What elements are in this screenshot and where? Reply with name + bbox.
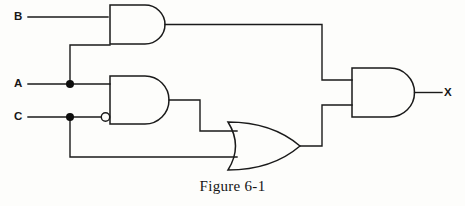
figure-container: B A C X Figure 6-1 <box>0 0 465 206</box>
input-label-b: B <box>14 11 23 23</box>
logic-circuit-diagram <box>0 0 465 206</box>
output-label-x: X <box>444 87 452 99</box>
gate-and-top <box>110 5 165 44</box>
input-label-c: C <box>14 111 23 123</box>
wire-or-output-to-final <box>300 105 352 146</box>
wire-and-middle-output-to-or <box>169 100 237 131</box>
input-label-a: A <box>14 78 23 90</box>
figure-caption: Figure 6-1 <box>0 178 465 195</box>
junction-dot-a <box>66 80 74 88</box>
wire-a-branch-to-top-and <box>70 45 110 84</box>
gate-or-bottom <box>228 122 300 170</box>
gate-and-output <box>352 68 415 117</box>
inverter-bubble-icon <box>101 113 109 121</box>
gate-and-middle <box>110 76 169 124</box>
junction-dot-c <box>66 113 74 121</box>
wire-and-top-output-to-final <box>165 25 352 81</box>
